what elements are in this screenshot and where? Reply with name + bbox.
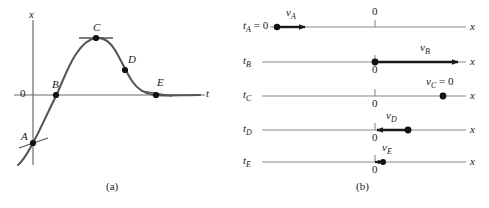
time-label-A: tA = 0 [243, 20, 268, 34]
time-label-D: tD [243, 123, 252, 137]
velocity-label-E: vE [382, 142, 392, 156]
point-label-B: B [52, 79, 59, 90]
particle-dot-C [440, 93, 447, 100]
caption-a: (a) [106, 180, 118, 192]
velocity-label-D: vD [386, 110, 397, 124]
origin-label-row-E: 0 [372, 164, 378, 175]
particle-dot-A [274, 24, 280, 30]
caption-b: (b) [356, 180, 369, 192]
axis-label-x-row-C: x [470, 90, 475, 101]
velocity-label-B: vB [420, 42, 430, 56]
axis-label-t: t [206, 88, 209, 99]
particle-dot-D [405, 127, 412, 134]
origin-label-a: 0 [20, 88, 26, 99]
position-time-curve [18, 38, 200, 165]
point-label-D: D [128, 54, 136, 65]
origin-label-row-C: 0 [372, 98, 378, 109]
axis-label-x: x [29, 9, 34, 20]
graph-point-C [93, 35, 99, 41]
graph-point-D [122, 67, 128, 73]
axis-label-x-row-D: x [470, 124, 475, 135]
graph-point-A [30, 140, 36, 146]
axis-label-x-row-B: x [470, 56, 475, 67]
time-label-C: tC [243, 89, 251, 103]
point-label-E: E [157, 77, 164, 88]
graph-point-E [153, 92, 159, 98]
velocity-label-A: vA [286, 7, 296, 21]
point-label-A: A [21, 131, 28, 142]
axis-label-x-row-A: x [470, 21, 475, 32]
time-label-E: tE [243, 155, 251, 169]
graph-point-B [53, 92, 59, 98]
panel-b-svg [230, 0, 489, 208]
origin-label-row-A: 0 [372, 6, 378, 17]
point-label-C: C [93, 22, 100, 33]
particle-dot-E [380, 159, 386, 165]
panel-a-position-time-graph: x t 0 A B C D E (a) [0, 0, 245, 208]
physics-figure: x t 0 A B C D E (a) [0, 0, 489, 208]
velocity-label-C: vC = 0 [426, 76, 453, 90]
time-label-B: tB [243, 55, 251, 69]
panel-b-number-lines: tA = 0 vA 0 x tB vB 0 x tC vC = 0 0 x tD… [230, 0, 489, 208]
axis-label-x-row-E: x [470, 156, 475, 167]
panel-a-svg [0, 0, 245, 208]
origin-label-row-B: 0 [372, 64, 378, 75]
origin-label-row-D: 0 [372, 132, 378, 143]
